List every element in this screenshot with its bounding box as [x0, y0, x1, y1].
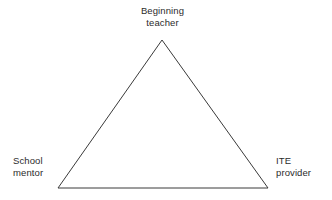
- triangle-diagram-canvas: Beginning teacher School mentor ITE prov…: [0, 0, 332, 200]
- node-label-ite-provider: ITE provider: [276, 155, 332, 179]
- triangle-outline: [58, 40, 268, 188]
- node-label-beginning-teacher: Beginning teacher: [110, 5, 215, 29]
- node-label-school-mentor: School mentor: [13, 155, 73, 179]
